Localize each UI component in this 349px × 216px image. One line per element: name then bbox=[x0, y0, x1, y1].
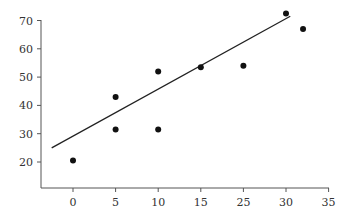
data-point bbox=[240, 63, 246, 69]
y-tick-label: 20 bbox=[19, 156, 33, 169]
y-axis-ticks: 203040506070 bbox=[19, 15, 41, 170]
data-point bbox=[283, 10, 289, 16]
scatter-chart: 203040506070 051015253035 bbox=[0, 0, 349, 216]
x-tick-label: 15 bbox=[194, 196, 208, 209]
x-tick-label: 25 bbox=[236, 196, 250, 209]
data-point bbox=[198, 64, 204, 70]
x-tick-label: 0 bbox=[70, 196, 77, 209]
y-tick-label: 50 bbox=[19, 71, 33, 84]
data-points bbox=[70, 10, 306, 163]
x-tick-label: 30 bbox=[279, 196, 293, 209]
trend-line bbox=[52, 16, 291, 148]
x-tick-label: 35 bbox=[322, 196, 336, 209]
data-point bbox=[155, 126, 161, 132]
x-tick-label: 5 bbox=[112, 196, 119, 209]
axes bbox=[41, 20, 329, 188]
y-tick-label: 60 bbox=[19, 43, 33, 56]
data-point bbox=[155, 68, 161, 74]
data-point bbox=[300, 26, 306, 32]
data-point bbox=[113, 126, 119, 132]
data-point bbox=[70, 158, 76, 164]
regression-line bbox=[52, 16, 291, 148]
data-point bbox=[113, 94, 119, 100]
y-tick-label: 70 bbox=[19, 15, 33, 28]
x-tick-label: 10 bbox=[151, 196, 165, 209]
x-axis-ticks: 051015253035 bbox=[70, 188, 336, 209]
y-tick-label: 40 bbox=[19, 99, 33, 112]
y-tick-label: 30 bbox=[19, 128, 33, 141]
